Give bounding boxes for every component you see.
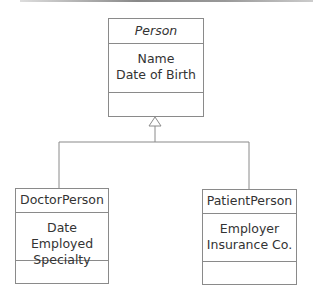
attribute: Specialty <box>16 252 108 268</box>
class-doctorperson: DoctorPerson Date Employed Specialty <box>15 188 109 284</box>
attribute: Employer <box>203 221 296 237</box>
class-patientperson: PatientPerson Employer Insurance Co. <box>202 189 297 285</box>
attribute: Insurance Co. <box>203 237 296 253</box>
class-attributes: Employer Insurance Co. <box>203 214 296 262</box>
class-attributes: Date Employed Specialty <box>16 213 108 261</box>
attribute: Date of Birth <box>109 67 203 83</box>
attribute: Date Employed <box>16 220 108 252</box>
class-attributes: Name Date of Birth <box>109 44 203 93</box>
inheritance-arrow-icon <box>149 117 161 126</box>
class-name: Person <box>109 19 203 44</box>
class-name: DoctorPerson <box>16 189 108 213</box>
attribute: Name <box>109 51 203 67</box>
class-name: PatientPerson <box>203 190 296 214</box>
class-person: Person Name Date of Birth <box>108 18 204 117</box>
